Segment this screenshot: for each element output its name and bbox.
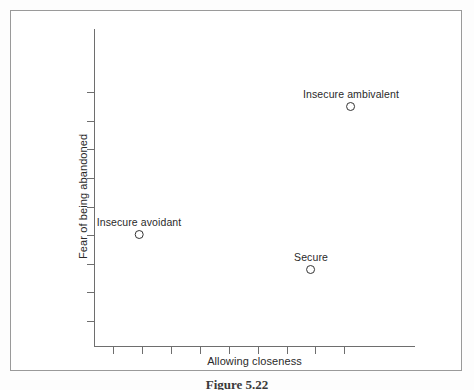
- figure-page: Fear of being abandoned Allowing closene…: [0, 0, 474, 390]
- data-point-group: Insecure ambivalent: [303, 88, 399, 111]
- y-axis-tick-7: [87, 121, 94, 122]
- figure-border: Fear of being abandoned Allowing closene…: [10, 10, 462, 371]
- x-axis-tick-7: [315, 347, 316, 354]
- data-point-marker: [307, 265, 316, 274]
- data-point-marker: [135, 230, 144, 239]
- x-axis-tick-5: [258, 347, 259, 354]
- data-point-label: Secure: [294, 251, 328, 263]
- data-point-marker: [347, 102, 356, 111]
- x-axis-tick-3: [200, 347, 201, 354]
- data-point-label: Insecure ambivalent: [303, 88, 399, 100]
- data-point-group: Secure: [294, 251, 328, 274]
- y-axis-tick-1: [87, 292, 94, 293]
- x-axis-title: Allowing closeness: [94, 355, 415, 367]
- x-axis-tick-0: [113, 347, 114, 354]
- data-point-group: Insecure avoidant: [97, 216, 182, 239]
- x-axis-tick-6: [287, 347, 288, 354]
- y-axis-line: [94, 29, 95, 347]
- y-axis-title: Fear of being abandoned: [77, 134, 89, 259]
- x-axis-tick-4: [229, 347, 230, 354]
- x-axis-tick-2: [171, 347, 172, 354]
- x-axis-tick-1: [142, 347, 143, 354]
- figure-caption: Figure 5.22: [0, 377, 474, 390]
- data-point-label: Insecure avoidant: [97, 216, 182, 228]
- x-axis-tick-8: [344, 347, 345, 354]
- scatter-plot: Fear of being abandoned Allowing closene…: [11, 11, 463, 372]
- y-axis-tick-0: [87, 321, 94, 322]
- y-axis-tick-2: [87, 264, 94, 265]
- y-axis-tick-8: [87, 92, 94, 93]
